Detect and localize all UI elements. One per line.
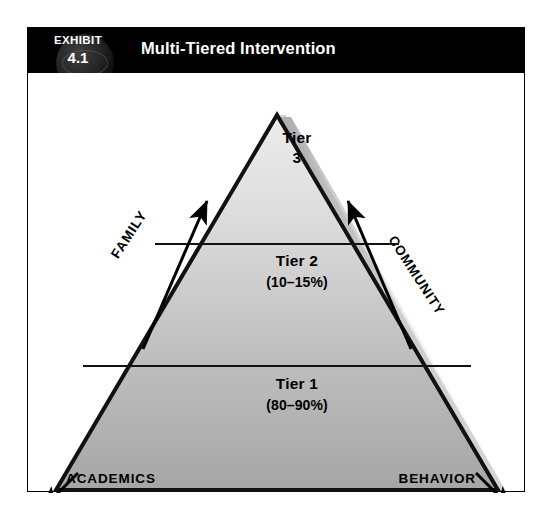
- exhibit-title: Multi-Tiered Intervention: [141, 39, 336, 58]
- pyramid-diagram: Tier 3 Tier 2 (10–15%) Tier 1 (80–90%) F…: [28, 73, 524, 493]
- exhibit-header-bar: EXHIBIT 4.1 Multi-Tiered Intervention: [28, 28, 524, 73]
- pyramid-graphic: [28, 73, 526, 493]
- exhibit-figure: EXHIBIT 4.1 Multi-Tiered Intervention: [27, 27, 525, 492]
- axis-label-academics: ACADEMICS: [66, 471, 156, 486]
- exhibit-number: 4.1: [38, 49, 118, 68]
- axis-label-behavior: BEHAVIOR: [399, 471, 476, 486]
- exhibit-word: EXHIBIT: [38, 33, 118, 47]
